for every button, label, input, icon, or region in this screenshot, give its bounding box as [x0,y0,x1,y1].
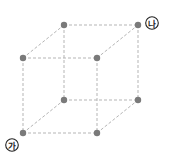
edge-bottom-right-depth [97,100,138,133]
vertex-back-bottom-right [135,97,141,103]
vertex-front-top-right [94,55,100,61]
vertex-front-top-left [20,55,26,61]
label-na: 나 [146,17,159,30]
cube-diagram: 가 나 [0,0,169,161]
vertex-back-top-right [135,22,141,28]
label-ga-text: 가 [8,141,16,151]
label-ga: 가 [6,139,19,152]
vertex-front-bottom-right [94,130,100,136]
edge-top-left-depth [23,25,64,58]
edge-bottom-left-depth [23,100,64,133]
vertex-back-bottom-left [61,97,67,103]
label-na-text: 나 [148,19,156,29]
edge-top-right-depth [97,25,138,58]
vertex-front-bottom-left [20,130,26,136]
vertex-back-top-left [61,22,67,28]
